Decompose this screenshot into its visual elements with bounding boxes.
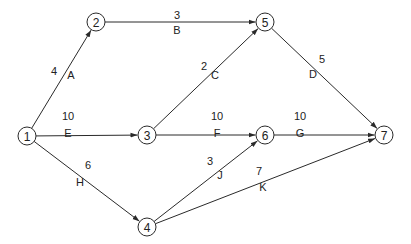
edge-f-duration: 10: [211, 110, 223, 122]
edge-c-arrow: [154, 29, 259, 129]
edge-e-activity-label: E: [64, 127, 71, 139]
node-3: 3: [138, 126, 156, 144]
edge-g-duration: 10: [294, 110, 306, 122]
edge-e-duration: 10: [62, 110, 74, 122]
node-2: 2: [87, 13, 105, 31]
node-4: 4: [138, 218, 156, 236]
edge-h-activity-label: H: [76, 176, 84, 188]
node-label: 3: [144, 129, 151, 143]
nodes-layer: 1234567: [18, 13, 393, 236]
edge-g-activity-label: G: [296, 127, 305, 139]
edge-b-activity-label: B: [173, 24, 180, 36]
edges-layer: [32, 22, 377, 224]
edge-d-duration: 5: [319, 53, 325, 65]
node-label: 5: [262, 16, 269, 30]
node-label: 4: [144, 221, 151, 235]
node-6: 6: [256, 126, 274, 144]
edge-c-activity-label: C: [211, 69, 219, 81]
node-label: 7: [381, 129, 388, 143]
node-label: 2: [93, 16, 100, 30]
edge-j-arrow: [154, 141, 257, 222]
edge-c-duration: 2: [201, 60, 207, 72]
edge-b-duration: 3: [174, 9, 180, 21]
node-7: 7: [375, 126, 393, 144]
node-label: 1: [24, 130, 31, 144]
node-5: 5: [256, 13, 274, 31]
edge-d-arrow: [272, 28, 378, 128]
edge-k-duration: 7: [256, 165, 262, 177]
edge-h-arrow: [34, 141, 139, 221]
node-1: 1: [18, 127, 36, 145]
edge-e-arrow: [36, 135, 138, 136]
node-label: 6: [262, 129, 269, 143]
edge-labels-layer: 4A3B2C5D10E10F10G6H3J7K: [51, 9, 325, 193]
edge-a-duration: 4: [51, 65, 57, 77]
edge-j-duration: 3: [207, 155, 213, 167]
edge-f-activity-label: F: [214, 127, 221, 139]
edge-h-duration: 6: [85, 159, 91, 171]
edge-d-activity-label: D: [309, 68, 317, 80]
edge-a-activity-label: A: [67, 69, 75, 81]
network-diagram: 4A3B2C5D10E10F10G6H3J7K 1234567: [0, 0, 411, 244]
edge-k-activity-label: K: [259, 181, 267, 193]
edge-j-activity-label: J: [217, 169, 223, 181]
